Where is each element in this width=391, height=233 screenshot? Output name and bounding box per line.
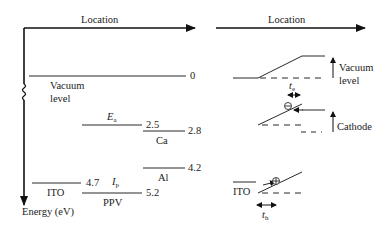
te-label: te bbox=[289, 81, 295, 93]
cathode-diagram bbox=[258, 103, 333, 133]
left-location-label: Location bbox=[81, 15, 118, 26]
ca-label: Ca bbox=[156, 136, 168, 147]
ca-value: 2.8 bbox=[188, 126, 201, 137]
cathode-label: Cathode bbox=[337, 122, 372, 133]
al-value: 4.2 bbox=[188, 163, 201, 174]
ito-value: 4.7 bbox=[86, 178, 99, 189]
right-vacuum-label-line1: Vacuum bbox=[339, 63, 373, 74]
ea-label: Ea bbox=[107, 112, 117, 124]
right-vacuum-label-line2: level bbox=[339, 76, 359, 87]
left-energy-axis bbox=[23, 28, 26, 205]
ip-label: Ip bbox=[112, 177, 119, 189]
th-label: th bbox=[262, 210, 268, 222]
vacuum-label-line1: Vacuum bbox=[50, 81, 84, 92]
right-location-label: Location bbox=[268, 15, 305, 26]
vacuum-value: 0 bbox=[190, 71, 195, 82]
ppv-label: PPV bbox=[103, 198, 122, 209]
ea-value: 2.5 bbox=[146, 120, 159, 131]
right-ito-label: ITO bbox=[233, 187, 250, 198]
vacuum-shift-diagram bbox=[233, 56, 333, 95]
al-label: Al bbox=[158, 173, 169, 184]
vacuum-label-line2: level bbox=[50, 94, 70, 105]
energy-axis-label: Energy (eV) bbox=[22, 207, 74, 218]
ito-label: ITO bbox=[47, 188, 64, 199]
ppv-value: 5.2 bbox=[146, 188, 159, 199]
